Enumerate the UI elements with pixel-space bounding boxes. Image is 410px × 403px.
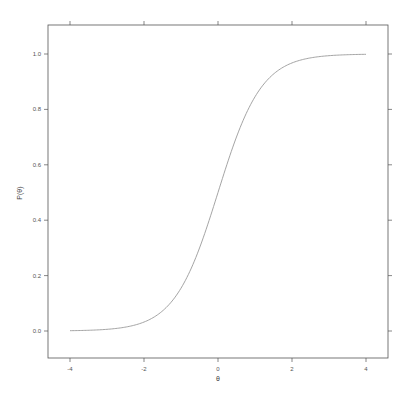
x-axis-label: θ [216,375,220,382]
x-tick-label: 4 [364,366,368,372]
y-axis: 0.00.20.40.60.81.0 [33,51,48,334]
x-tick-label: 2 [290,366,294,372]
x-tick-label: -2 [141,366,147,372]
x-axis: -4-2024 [67,358,368,372]
x-tick-label: -4 [67,366,73,372]
chart: -4-2024 0.00.20.40.60.81.0 θ P(θ) [0,0,410,403]
y-tick-label: 0.2 [33,273,42,279]
y-axis-right [388,54,392,331]
y-axis-label: P(θ) [16,186,24,199]
y-tick-label: 0.8 [33,106,42,112]
y-tick-label: 1.0 [33,51,42,57]
x-tick-label: 0 [216,366,220,372]
y-tick-label: 0.6 [33,162,42,168]
y-tick-label: 0.0 [33,328,42,334]
y-tick-label: 0.4 [33,217,42,223]
x-axis-top [70,21,366,25]
